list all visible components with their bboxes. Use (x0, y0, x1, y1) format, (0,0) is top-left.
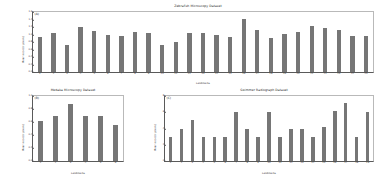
bar (242, 19, 246, 72)
bar (38, 37, 42, 72)
x-tick-label: 13 (296, 161, 307, 164)
bar-slot (237, 12, 251, 72)
x-tick-label: 12 (285, 161, 296, 164)
bar (187, 33, 191, 72)
bar-slot (264, 96, 275, 161)
bar-slot (48, 96, 63, 161)
bar (269, 38, 273, 73)
panel-b-medaka: Medaka Microscopy Dataset (B) 0.00.20.40… (18, 89, 128, 175)
x-tick-label: 23 (332, 72, 346, 75)
x-tick-label: 6 (220, 161, 231, 164)
bar (223, 137, 227, 161)
bar (310, 26, 314, 72)
bar-slot (33, 96, 48, 161)
panel-b-ylabel: Mean error (in pixels) (23, 124, 26, 151)
panel-c-x-axis: 12345678910111213141516171819 (165, 161, 373, 164)
bar-slot (60, 12, 74, 72)
x-tick-label: 16 (329, 161, 340, 164)
bar-slot (198, 96, 209, 161)
panel-b-bars (33, 96, 123, 161)
bar (214, 35, 218, 72)
x-tick-label: 6 (108, 161, 123, 164)
bar (355, 137, 359, 161)
bar-slot (210, 12, 224, 72)
bar (213, 137, 217, 161)
bar (133, 32, 137, 73)
bar-slot (305, 12, 319, 72)
x-tick-label: 3 (187, 161, 198, 164)
bar-slot (275, 96, 286, 161)
bar-slot (74, 12, 88, 72)
bar (311, 137, 315, 161)
bar-slot (231, 96, 242, 161)
x-tick-label: 18 (351, 161, 362, 164)
bar-slot (307, 96, 318, 161)
x-tick-label: 18 (264, 72, 278, 75)
x-tick-label: 1 (165, 161, 176, 164)
x-tick-label: 14 (307, 161, 318, 164)
x-tick-label: 19 (362, 161, 373, 164)
bar-slot (285, 96, 296, 161)
panel-b-xlabel: Landmarks (32, 173, 124, 176)
x-tick-label: 1 (33, 72, 47, 75)
bar (191, 120, 195, 161)
x-tick-label: 17 (340, 161, 351, 164)
x-tick-label: 11 (169, 72, 183, 75)
bar (278, 137, 282, 161)
x-tick-label: 8 (242, 161, 253, 164)
bar (169, 137, 173, 161)
bar (113, 125, 118, 161)
bar-slot (346, 12, 360, 72)
bar (83, 116, 88, 162)
bar (337, 30, 341, 72)
x-tick-label: 9 (253, 161, 264, 164)
bar (38, 121, 43, 161)
bar-slot (183, 12, 197, 72)
x-tick-label: 21 (305, 72, 319, 75)
panel-c-swimmer: Swimmer Radiograph Dataset (C) 02468 123… (150, 89, 378, 175)
bar-slot (108, 96, 123, 161)
bar-slot (278, 12, 292, 72)
panel-a-bars (33, 12, 373, 72)
bar-slot (155, 12, 169, 72)
bar (65, 45, 69, 72)
x-tick-label: 11 (275, 161, 286, 164)
bar (228, 37, 232, 72)
panel-c-ylabel: Mean error (in pixels) (155, 124, 158, 151)
panel-a-xlabel: Landmarks (32, 83, 374, 86)
panel-a-ylabel: Mean error (in pixels) (23, 36, 26, 63)
bar-slot (63, 96, 78, 161)
bar (119, 36, 123, 72)
bar-slot (87, 12, 101, 72)
x-tick-label: 8 (128, 72, 142, 75)
x-tick-label: 1 (33, 161, 48, 164)
x-tick-label: 19 (278, 72, 292, 75)
x-tick-label: 4 (74, 72, 88, 75)
bar-slot (242, 96, 253, 161)
bar (202, 137, 206, 161)
panel-b-plot-area: (B) 0.00.20.40.60.81.0 123456 (32, 95, 124, 162)
bar (323, 28, 327, 72)
bar-slot (264, 12, 278, 72)
x-tick-label: 22 (318, 72, 332, 75)
bar (289, 129, 293, 162)
x-tick-label: 12 (183, 72, 197, 75)
bar-slot (329, 96, 340, 161)
x-tick-label: 3 (63, 161, 78, 164)
panel-c-plot-area: (C) 02468 12345678910111213141516171819 (164, 95, 374, 162)
figure-canvas: Zebrafish Microscopy Dataset (A) 0.00.20… (0, 0, 388, 177)
bar (366, 112, 370, 161)
bar (98, 116, 103, 162)
bar-slot (318, 96, 329, 161)
bar-slot (93, 96, 108, 161)
panel-c-bars (165, 96, 373, 161)
x-tick-label: 13 (196, 72, 210, 75)
bar-slot (362, 96, 373, 161)
bar-slot (359, 12, 373, 72)
x-tick-label: 17 (251, 72, 265, 75)
panel-a-plot-area: (A) 0.00.20.40.60.81.01.21.41.6 12345678… (32, 11, 374, 73)
x-tick-label: 4 (198, 161, 209, 164)
bar (92, 31, 96, 72)
bar (51, 33, 55, 72)
x-tick-label: 16 (237, 72, 251, 75)
